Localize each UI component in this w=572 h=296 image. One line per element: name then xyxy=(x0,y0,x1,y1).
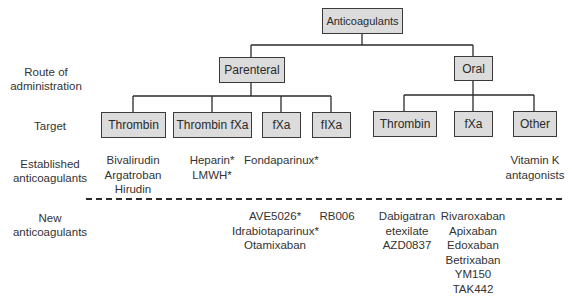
node-parenteral-thrombin: Thrombin xyxy=(101,112,166,138)
new-oral-fxa: Rivaroxaban Apixaban Edoxaban Betrixaban… xyxy=(440,209,506,296)
drug-etexilate: etexilate xyxy=(377,224,437,239)
drug-rb006: RB006 xyxy=(317,209,357,224)
node-parenteral-fixa: fIXa xyxy=(312,112,351,138)
drug-rivaroxaban: Rivaroxaban xyxy=(440,209,506,224)
drug-vitamin-k-line2: antagonists xyxy=(500,168,570,183)
established-oral-other: Vitamin K antagonists xyxy=(500,153,570,182)
drug-tak442: TAK442 xyxy=(440,282,506,296)
row-label-route-line2: administration xyxy=(8,79,84,93)
drug-lmwh: LMWH* xyxy=(180,168,244,183)
drug-vitamin-k-line1: Vitamin K xyxy=(500,153,570,168)
drug-dabigatran: Dabigatran xyxy=(377,209,437,224)
row-label-established-line1: Established xyxy=(8,157,92,171)
row-label-target: Target xyxy=(8,119,92,133)
drug-ym150: YM150 xyxy=(440,267,506,282)
row-label-new-line2: anticoagulants xyxy=(8,225,92,239)
new-parenteral-fixa: RB006 xyxy=(317,209,357,224)
drug-apixaban: Apixaban xyxy=(440,224,506,239)
drug-otamixaban: Otamixaban xyxy=(232,238,318,253)
row-label-new: New anticoagulants xyxy=(8,211,92,239)
drug-argatroban: Argatroban xyxy=(93,168,173,183)
node-parenteral-fxa: fXa xyxy=(262,112,301,138)
drug-idrabiotaparinux: Idrabiotaparinux* xyxy=(232,224,318,239)
drug-betrixaban: Betrixaban xyxy=(440,253,506,268)
established-parenteral-fxa: Fondaparinux* xyxy=(244,153,318,168)
row-label-established-line2: anticoagulants xyxy=(8,171,92,185)
node-oral: Oral xyxy=(454,56,493,81)
node-parenteral: Parenteral xyxy=(219,57,285,83)
drug-heparin: Heparin* xyxy=(180,153,244,168)
node-oral-thrombin: Thrombin xyxy=(373,111,437,137)
drug-bivalirudin: Bivalirudin xyxy=(93,153,173,168)
drug-ave5026: AVE5026* xyxy=(232,209,318,224)
drug-fondaparinux: Fondaparinux* xyxy=(244,153,318,168)
node-parenteral-thrombin-fxa: Thrombin fXa xyxy=(173,112,252,138)
node-anticoagulants: Anticoagulants xyxy=(322,8,403,34)
drug-edoxaban: Edoxaban xyxy=(440,238,506,253)
row-label-route-line1: Route of xyxy=(8,65,84,79)
node-oral-other: Other xyxy=(513,111,557,137)
row-label-route: Route of administration xyxy=(8,65,84,93)
node-oral-fxa: fXa xyxy=(454,111,493,137)
established-parenteral-thrombin: Bivalirudin Argatroban Hirudin xyxy=(93,153,173,197)
row-label-established: Established anticoagulants xyxy=(8,157,92,185)
new-parenteral-fxa: AVE5026* Idrabiotaparinux* Otamixaban xyxy=(232,209,318,253)
drug-hirudin: Hirudin xyxy=(93,182,173,197)
established-parenteral-thrombin-fxa: Heparin* LMWH* xyxy=(180,153,244,182)
row-label-new-line1: New xyxy=(8,211,92,225)
new-oral-thrombin: Dabigatran etexilate AZD0837 xyxy=(377,209,437,253)
drug-azd0837: AZD0837 xyxy=(377,238,437,253)
